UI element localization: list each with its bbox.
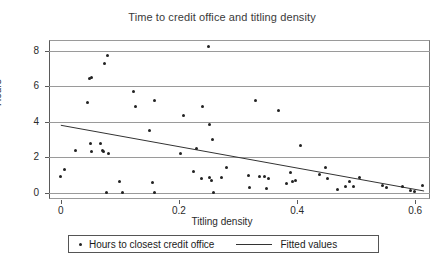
scatter-point xyxy=(401,185,404,188)
x-tick-label: 0 xyxy=(46,205,76,216)
y-tick-mark xyxy=(45,86,49,87)
scatter-chart-figure: Time to credit office and titling densit… xyxy=(0,0,444,264)
y-tick-mark xyxy=(45,157,49,158)
legend-dot-icon xyxy=(79,243,82,246)
scatter-point xyxy=(192,170,195,173)
scatter-point xyxy=(207,45,210,48)
scatter-point xyxy=(89,142,92,145)
scatter-point xyxy=(99,142,102,145)
fitted-values-line xyxy=(49,40,430,199)
y-tick-mark xyxy=(45,193,49,194)
scatter-point xyxy=(107,152,110,155)
scatter-point xyxy=(211,138,214,141)
chart-legend: Hours to closest credit office Fitted va… xyxy=(68,235,379,253)
scatter-point xyxy=(299,144,302,147)
y-tick-mark xyxy=(45,51,49,52)
legend-label-points: Hours to closest credit office xyxy=(89,239,214,250)
scatter-point xyxy=(106,54,109,57)
y-tick-label: 2 xyxy=(17,151,39,162)
scatter-point xyxy=(148,129,151,132)
legend-label-fitted: Fitted values xyxy=(280,239,337,250)
scatter-point xyxy=(348,180,351,183)
scatter-point xyxy=(324,166,327,169)
scatter-point xyxy=(247,174,250,177)
x-tick-mark xyxy=(179,200,180,204)
y-tick-label: 4 xyxy=(17,116,39,127)
legend-entry-fitted: Fitted values xyxy=(236,239,337,250)
scatter-point xyxy=(291,180,294,183)
x-tick-mark xyxy=(415,200,416,204)
y-tick-label: 0 xyxy=(17,187,39,198)
x-axis-label: Titling density xyxy=(0,216,444,227)
legend-line-icon xyxy=(236,244,272,245)
legend-entry-points: Hours to closest credit office xyxy=(79,239,214,250)
x-tick-label: 0.4 xyxy=(282,205,312,216)
scatter-point xyxy=(352,185,355,188)
scatter-point xyxy=(277,109,280,112)
scatter-point xyxy=(153,99,156,102)
scatter-point xyxy=(358,176,361,179)
chart-title: Time to credit office and titling densit… xyxy=(0,11,444,23)
scatter-point xyxy=(102,150,105,153)
scatter-point xyxy=(413,190,416,193)
plot-area xyxy=(49,40,430,199)
scatter-point xyxy=(285,182,288,185)
y-tick-mark xyxy=(45,122,49,123)
y-axis-label: Hours xyxy=(0,79,3,106)
scatter-point xyxy=(421,184,424,187)
scatter-point xyxy=(258,175,261,178)
scatter-point xyxy=(267,177,270,180)
scatter-point xyxy=(318,173,321,176)
y-tick-label: 8 xyxy=(17,45,39,56)
x-tick-mark xyxy=(297,200,298,204)
x-tick-mark xyxy=(61,200,62,204)
x-tick-label: 0.2 xyxy=(164,205,194,216)
y-tick-label: 6 xyxy=(17,80,39,91)
scatter-point xyxy=(153,191,156,194)
x-tick-label: 0.6 xyxy=(400,205,430,216)
scatter-point xyxy=(210,179,213,182)
scatter-point xyxy=(151,181,154,184)
scatter-point xyxy=(182,114,185,117)
